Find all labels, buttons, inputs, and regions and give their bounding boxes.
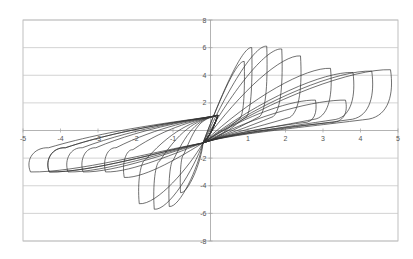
y-tick-label: 6 <box>203 44 207 51</box>
x-tick-label: 5 <box>396 135 400 142</box>
x-tick-label: 3 <box>321 135 325 142</box>
y-tick-label: 8 <box>203 17 207 24</box>
y-tick-label: 2 <box>203 99 207 106</box>
x-tick-label: -5 <box>20 135 26 142</box>
y-tick-label: -2 <box>200 155 206 162</box>
x-tick-label: -3 <box>95 135 101 142</box>
x-tick-label: 4 <box>359 135 363 142</box>
y-tick-label: -4 <box>200 182 206 189</box>
x-tick-label: -4 <box>57 135 63 142</box>
x-tick-label: -2 <box>132 135 138 142</box>
hysteresis-chart: -5-4-3-2-1123458642-2-4-6-8 <box>0 0 413 259</box>
y-tick-label: -6 <box>200 210 206 217</box>
x-tick-label: -1 <box>170 135 176 142</box>
x-tick-label: 1 <box>246 135 250 142</box>
x-tick-label: 2 <box>284 135 288 142</box>
y-tick-label: -8 <box>200 238 206 245</box>
y-tick-label: 4 <box>203 72 207 79</box>
